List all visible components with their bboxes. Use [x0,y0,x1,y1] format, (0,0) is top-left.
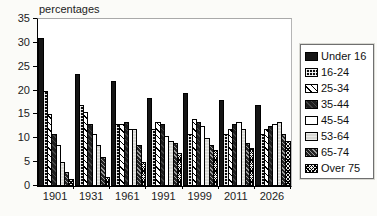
bar-over-75-1961 [141,162,146,186]
x-axis-tick-label: 2011 [218,190,254,202]
legend-swatch-icon [305,116,318,125]
bar-over-75-1931 [105,177,110,187]
legend-item: 16-24 [305,64,370,80]
bar-over-75-1901 [68,179,73,186]
y-axis-tick-mark [33,185,37,186]
legend-item: Under 16 [305,48,370,64]
x-axis-tick-label: 2026 [254,190,290,202]
x-axis-tick-mark [145,186,146,189]
x-axis-tick-label: 1999 [182,190,218,202]
bar-group-2026 [255,19,291,186]
y-axis-tick-label: 25 [4,61,30,71]
x-axis-tick-mark [109,186,110,189]
y-axis-tick-mark [33,137,37,138]
legend-label: Under 16 [321,50,366,62]
legend-swatch-icon [305,68,318,77]
y-axis-tick-label: 20 [4,85,30,95]
bar-over-75-1999 [213,150,218,186]
legend-label: 16-24 [321,66,349,78]
x-axis-tick-mark [182,186,183,189]
bar-group-1931 [74,19,110,186]
bar-group-1991 [146,19,182,186]
y-axis-tick-mark [33,42,37,43]
legend-swatch-icon [305,100,318,109]
bar-group-1961 [110,19,146,186]
y-axis-tick-label: 5 [4,156,30,166]
y-axis-tick-label: 0 [4,180,30,190]
bar-over-75-1991 [177,153,182,186]
y-axis-tick-mark [33,161,37,162]
legend-item: 25-34 [305,80,370,96]
legend-swatch-icon [305,52,318,61]
legend-label: 45-54 [321,114,349,126]
y-axis-title: percentages [39,3,100,15]
bar-group-1901 [38,19,74,186]
y-axis-tick-mark [33,113,37,114]
bar-group-1999 [183,19,219,186]
legend-item: 65-74 [305,144,370,160]
x-axis-tick-mark [218,186,219,189]
x-axis-tick-mark [290,186,291,189]
legend-swatch-icon [305,84,318,93]
x-axis-tick-mark [254,186,255,189]
x-axis-tick-label: 1901 [37,190,73,202]
y-axis-tick-label: 15 [4,108,30,118]
legend-item: 35-44 [305,96,370,112]
x-axis-tick-label: 1961 [109,190,145,202]
legend-label: 25-34 [321,82,349,94]
y-axis-tick-label: 35 [4,13,30,23]
bar-over-75-2026 [285,141,290,186]
y-axis-tick-mark [33,90,37,91]
x-axis-tick-label: 1931 [73,190,109,202]
legend-label: 53-64 [321,130,349,142]
bar-group-2011 [219,19,255,186]
legend-swatch-icon [305,164,318,173]
legend-item: Over 75 [305,160,370,176]
y-axis-tick-mark [33,66,37,67]
y-axis-tick-label: 10 [4,132,30,142]
legend: Under 1616-2425-3435-4445-5453-6465-74Ov… [300,44,374,179]
legend-label: Over 75 [321,162,360,174]
legend-swatch-icon [305,132,318,141]
legend-label: 35-44 [321,98,349,110]
legend-item: 53-64 [305,128,370,144]
x-axis-tick-mark [73,186,74,189]
bar-chart: percentages 05101520253035 1901193119611… [0,0,377,216]
bar-over-75-2011 [249,148,254,186]
plot-area [37,18,292,187]
y-axis-tick-mark [33,18,37,19]
legend-label: 65-74 [321,146,349,158]
legend-swatch-icon [305,148,318,157]
y-axis-tick-label: 30 [4,37,30,47]
legend-item: 45-54 [305,112,370,128]
x-axis-tick-label: 1991 [145,190,181,202]
